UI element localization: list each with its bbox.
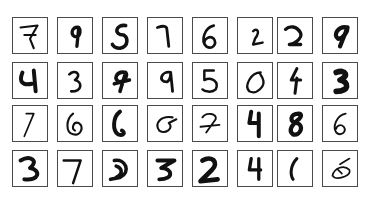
digit-cell: 2 <box>277 17 313 54</box>
handwritten-digit-2-icon <box>278 18 312 53</box>
handwritten-digit-7-icon <box>13 18 47 53</box>
handwritten-digit-4-icon <box>238 151 272 186</box>
digit-cell: 9 <box>57 17 93 54</box>
digit-cell: 3 <box>57 62 93 99</box>
handwritten-digit-1-icon <box>148 18 182 53</box>
digit-cell: 0 <box>57 105 93 142</box>
handwritten-digit-4-icon <box>238 106 272 141</box>
handwritten-digit-8-icon <box>278 106 312 141</box>
digit-cell: 4 <box>237 150 273 187</box>
digit-cell: 6 <box>322 105 358 142</box>
digit-cell: 4 <box>237 105 273 142</box>
digit-cell: 3 <box>192 62 228 99</box>
handwritten-digit-9-icon <box>323 18 357 53</box>
digit-cell: 7 <box>12 105 48 142</box>
handwritten-digit-0-icon <box>238 63 272 98</box>
handwritten-digit-9-icon <box>103 18 137 53</box>
handwritten-digit-4-icon <box>13 63 47 98</box>
handwritten-digit-0-icon <box>58 106 92 141</box>
digit-cell: 0 <box>237 62 273 99</box>
handwritten-digit-9-icon <box>103 63 137 98</box>
digit-cell: 2 <box>237 17 273 54</box>
digit-cell: 7 <box>57 150 93 187</box>
digit-cell: 9 <box>322 17 358 54</box>
digit-cell: 5 <box>322 150 358 187</box>
digit-cell: 7 <box>192 105 228 142</box>
handwritten-digit-2-icon <box>193 151 227 186</box>
digit-cell: 8 <box>277 105 313 142</box>
handwritten-digit-2-icon <box>103 151 137 186</box>
handwritten-digit-7-icon <box>13 106 47 141</box>
handwritten-digit-9-icon <box>58 18 92 53</box>
handwritten-digit-3-icon <box>323 63 357 98</box>
handwritten-digit-6-icon <box>193 18 227 53</box>
digit-cell: 6 <box>147 105 183 142</box>
handwritten-digit-3-icon <box>58 63 92 98</box>
handwritten-digit-7-icon <box>193 106 227 141</box>
digit-cell: 1 <box>147 17 183 54</box>
digit-cell: 3 <box>147 150 183 187</box>
handwritten-digit-6-icon <box>323 106 357 141</box>
digit-cell: 9 <box>147 62 183 99</box>
handwritten-digit-3-icon <box>148 151 182 186</box>
handwritten-digit-5-icon <box>323 151 357 186</box>
digit-cell: 6 <box>102 105 138 142</box>
digit-cell: 3 <box>12 150 48 187</box>
handwritten-digit-1-icon <box>278 151 312 186</box>
digit-cell: 6 <box>192 17 228 54</box>
digit-cell: 4 <box>12 62 48 99</box>
handwritten-digit-4-icon <box>278 63 312 98</box>
digit-cell: 1 <box>277 150 313 187</box>
digit-cell: 2 <box>192 150 228 187</box>
handwritten-digit-6-icon <box>148 106 182 141</box>
handwritten-digit-3-icon <box>193 63 227 98</box>
digit-cell: 9 <box>102 17 138 54</box>
digit-cell: 2 <box>102 150 138 187</box>
digit-cell: 9 <box>102 62 138 99</box>
handwritten-digit-3-icon <box>13 151 47 186</box>
digit-cell: 4 <box>277 62 313 99</box>
handwritten-digit-2-icon <box>238 18 272 53</box>
handwritten-digit-6-icon <box>103 106 137 141</box>
digit-cell: 3 <box>322 62 358 99</box>
handwritten-digit-7-icon <box>58 151 92 186</box>
handwritten-digit-9-icon <box>148 63 182 98</box>
digit-cell: 7 <box>12 17 48 54</box>
